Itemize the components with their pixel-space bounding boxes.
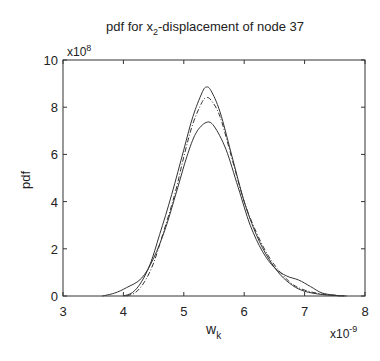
y-axis-label: pdf <box>18 171 33 189</box>
y-multiplier: x108 <box>67 43 91 59</box>
pdf-curves <box>102 87 347 296</box>
x-tick-label: 6 <box>241 304 248 319</box>
pdf-line-chart: pdf for x2-displacement of node 37 x108 … <box>0 0 380 361</box>
x-multiplier: x10-9 <box>330 324 357 341</box>
curve-curve-wide <box>102 122 340 296</box>
curve-curve-narrow-tall <box>123 87 344 296</box>
x-tick-label: 5 <box>180 304 187 319</box>
curve-curve-narrow-dashed <box>126 98 347 296</box>
x-tick-label: 8 <box>361 304 368 319</box>
x-tick-label: 3 <box>59 304 66 319</box>
y-tick-label: 4 <box>51 195 58 210</box>
y-tick-label: 0 <box>51 289 58 304</box>
x-axis-label: wk <box>205 321 222 341</box>
x-tick-labels: 345678 <box>59 304 368 319</box>
x-tick-label: 7 <box>301 304 308 319</box>
y-tick-label: 8 <box>51 100 58 115</box>
y-tick-label: 6 <box>51 147 58 162</box>
x-tick-label: 4 <box>120 304 127 319</box>
y-tick-label: 10 <box>44 53 58 68</box>
y-tick-label: 2 <box>51 242 58 257</box>
y-tick-labels: 0246810 <box>44 53 58 304</box>
chart-title: pdf for x2-displacement of node 37 <box>106 19 304 37</box>
